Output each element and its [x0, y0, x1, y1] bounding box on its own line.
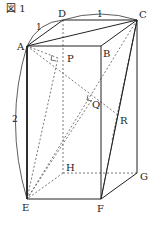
label-a: A	[16, 41, 25, 52]
label-h: H	[66, 162, 75, 173]
figure-title: 図 1	[6, 3, 26, 14]
label-c: C	[139, 9, 147, 20]
dim-ad: 1	[36, 22, 42, 32]
label-f: F	[97, 203, 104, 214]
label-q: Q	[92, 99, 100, 110]
label-g: G	[140, 171, 148, 182]
label-r: R	[120, 115, 128, 126]
label-p: P	[67, 53, 74, 64]
label-e: E	[22, 202, 29, 213]
label-d: D	[58, 8, 66, 19]
dim-ae: 2	[12, 114, 18, 124]
cuboid-diagram: 図 1 1 1	[0, 0, 157, 227]
dim-dc: 1	[97, 9, 103, 19]
hidden-edges	[27, 20, 137, 199]
label-b: B	[103, 48, 110, 59]
